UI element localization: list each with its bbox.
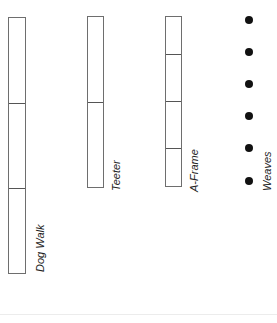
- divider: [0, 314, 277, 315]
- a-frame-segment-divider: [166, 148, 181, 149]
- a-frame-segment-divider: [166, 101, 181, 102]
- weaves-label: Weaves: [261, 151, 273, 191]
- teeter-obstacle: [87, 16, 104, 188]
- weave-pole-icon: [245, 48, 253, 56]
- dog-walk-label: Dog Walk: [34, 225, 46, 272]
- teeter-segment-divider: [88, 102, 103, 103]
- dog-walk-obstacle: [8, 17, 26, 274]
- a-frame-obstacle: [165, 16, 182, 187]
- weave-pole-icon: [245, 144, 253, 152]
- weave-pole-icon: [245, 112, 253, 120]
- dog-walk-segment-divider: [9, 188, 25, 189]
- teeter-label: Teeter: [110, 160, 122, 191]
- a-frame-label: A-Frame: [188, 149, 200, 192]
- weave-pole-icon: [245, 80, 253, 88]
- dog-walk-segment-divider: [9, 103, 25, 104]
- weave-pole-icon: [245, 177, 253, 185]
- a-frame-segment-divider: [166, 54, 181, 55]
- weave-pole-icon: [245, 16, 253, 24]
